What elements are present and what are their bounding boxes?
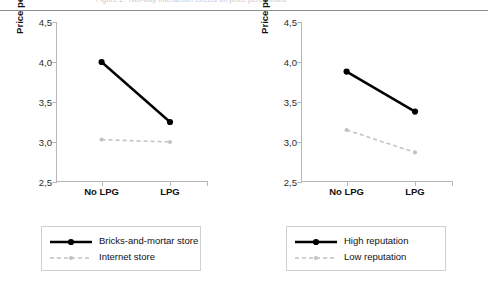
- y-tick-label: 3,5: [271, 97, 297, 108]
- legend-key-swatch: [294, 234, 338, 246]
- y-tick-label: 3,0: [26, 137, 52, 148]
- y-tick-mark: [52, 62, 57, 63]
- data-point-marker: [168, 140, 172, 144]
- y-tick-mark: [52, 102, 57, 103]
- legend-item-label: High reputation: [344, 235, 408, 246]
- legend-item-label: Internet store: [99, 251, 155, 262]
- x-axis-ticklabels-right: No LPGLPG: [301, 186, 453, 200]
- y-tick-label: 4,5: [271, 17, 297, 28]
- y-tick-mark: [52, 182, 57, 183]
- y-tick-mark: [297, 142, 302, 143]
- y-tick-mark: [297, 102, 302, 103]
- data-point-marker: [413, 150, 417, 154]
- y-tick-mark: [52, 142, 57, 143]
- legend-item-label: Bricks-and-mortar store: [99, 235, 198, 246]
- y-tick-label: 4,5: [26, 17, 52, 28]
- legend-item: High reputation: [294, 232, 438, 248]
- data-point-marker: [345, 128, 349, 132]
- y-axis-ticklabels-right: 2,53,03,54,04,5: [271, 22, 297, 182]
- data-point-marker: [412, 109, 418, 115]
- y-tick-label: 4,0: [271, 57, 297, 68]
- figure-caption-clipped: Figure 2. Two-way interaction effects on…: [96, 0, 396, 4]
- top-divider: [0, 10, 488, 11]
- legend-item-label: Low reputation: [344, 251, 406, 262]
- series-layer-right: [301, 22, 453, 182]
- y-tick-label: 3,5: [26, 97, 52, 108]
- x-tick-label: LPG: [160, 186, 180, 197]
- plot-area-left: [56, 22, 208, 182]
- y-tick-mark: [297, 22, 302, 23]
- series-layer-left: [56, 22, 208, 182]
- legend-right: High reputationLow reputation: [286, 226, 446, 271]
- y-tick-mark: [297, 182, 302, 183]
- data-point-marker: [99, 59, 105, 65]
- figure-container: Figure 2. Two-way interaction effects on…: [0, 0, 488, 285]
- y-tick-label: 2,5: [271, 177, 297, 188]
- series-line: [347, 130, 415, 152]
- y-axis-ticklabels-left: 2,53,03,54,04,5: [26, 22, 52, 182]
- legend-key-swatch: [294, 250, 338, 262]
- y-tick-mark: [297, 62, 302, 63]
- series-line: [102, 140, 170, 142]
- x-axis-ticklabels-left: No LPGLPG: [56, 186, 208, 200]
- y-tick-label: 2,5: [26, 177, 52, 188]
- x-tick-label: No LPG: [84, 186, 119, 197]
- data-point-marker: [344, 69, 350, 75]
- series-line: [102, 62, 170, 122]
- data-point-marker: [100, 138, 104, 142]
- chart-panel-left: Price perceptions 2,53,03,54,04,5 No LPG…: [8, 14, 233, 276]
- series-line: [347, 72, 415, 112]
- y-tick-label: 3,0: [271, 137, 297, 148]
- plot-area-right: [301, 22, 453, 182]
- y-tick-mark: [52, 22, 57, 23]
- legend-item: Internet store: [49, 248, 193, 264]
- y-tick-label: 4,0: [26, 57, 52, 68]
- chart-panel-right: Price perceptions 2,53,03,54,04,5 No LPG…: [253, 14, 478, 276]
- legend-item: Bricks-and-mortar store: [49, 232, 193, 248]
- legend-left: Bricks-and-mortar storeInternet store: [41, 226, 201, 271]
- x-tick-label: LPG: [405, 186, 425, 197]
- legend-key-swatch: [49, 234, 93, 246]
- x-tick-label: No LPG: [329, 186, 364, 197]
- legend-key-swatch: [49, 250, 93, 262]
- data-point-marker: [167, 119, 173, 125]
- legend-item: Low reputation: [294, 248, 438, 264]
